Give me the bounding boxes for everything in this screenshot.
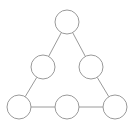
edge-top-mid-right — [73, 33, 86, 57]
nodes-group — [7, 10, 127, 119]
node-mid-right — [79, 55, 103, 79]
edge-mid-right-bottom-right — [97, 77, 109, 96]
node-mid-left — [31, 55, 55, 79]
node-top — [55, 10, 79, 34]
node-bottom-right — [103, 95, 127, 119]
node-bottom-center — [55, 95, 79, 119]
triangle-graph-diagram — [0, 0, 136, 128]
node-bottom-left — [7, 95, 31, 119]
edge-top-mid-left — [49, 33, 62, 57]
edge-mid-left-bottom-left — [25, 77, 37, 96]
